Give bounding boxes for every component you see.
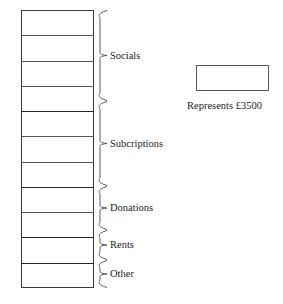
- bar-unit-divider: [21, 86, 94, 87]
- brace-other: [99, 261, 107, 288]
- group-label-subcriptions: Subcriptions: [110, 138, 163, 149]
- group-label-donations: Donations: [110, 202, 153, 213]
- bar-unit-divider: [21, 187, 94, 188]
- brace-subcriptions: [99, 102, 107, 186]
- bar-unit-divider: [21, 162, 94, 163]
- bar-unit-divider: [21, 111, 94, 112]
- legend: Represents £3500: [196, 65, 282, 111]
- brace-rents: [99, 231, 107, 260]
- legend-caption: Represents £3500: [187, 100, 282, 111]
- bar-outline: [21, 10, 94, 288]
- group-label-other: Other: [110, 268, 134, 279]
- brace-donations: [99, 187, 107, 230]
- segmented-bar: [21, 10, 94, 288]
- bar-unit-divider: [21, 263, 94, 264]
- legend-unit-rectangle-icon: [196, 65, 269, 91]
- bar-unit-divider: [21, 35, 94, 36]
- group-label-socials: Socials: [110, 50, 140, 61]
- brace-socials: [99, 11, 107, 101]
- chart-canvas: SocialsSubcriptionsDonationsRentsOther R…: [0, 0, 283, 304]
- bar-unit-divider: [21, 237, 94, 238]
- bar-unit-divider: [21, 212, 94, 213]
- bar-unit-divider: [21, 61, 94, 62]
- bar-unit-divider: [21, 136, 94, 137]
- group-braces: [94, 8, 110, 292]
- brace-paths: [94, 8, 110, 292]
- group-label-rents: Rents: [110, 239, 134, 250]
